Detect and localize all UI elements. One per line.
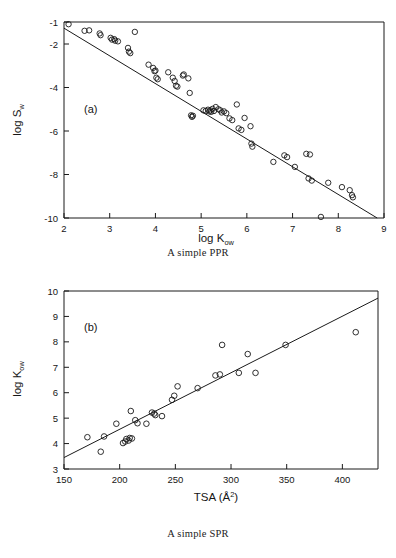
scatter-plot-b: 150200250300350400345678910(b)TSA (Å2)lo… [0, 279, 396, 558]
data-point [175, 384, 181, 390]
x-tick-label-a: 7 [290, 223, 295, 234]
x-tick-label-a: 6 [244, 223, 249, 234]
y-tick-label-b: 5 [53, 413, 58, 424]
data-point [98, 449, 104, 455]
panel-label-a: (a) [84, 103, 97, 115]
y-tick-label-a: -2 [50, 39, 58, 50]
data-points-a [66, 22, 356, 220]
plot-frame-b [64, 291, 378, 469]
scatter-plot-a: 23456789-1-2-4-6-8-10(a)log Kowlog Sw [0, 0, 396, 279]
data-point [126, 49, 131, 54]
data-point [186, 76, 191, 81]
data-point [155, 77, 160, 82]
chart-panel-b: 150200250300350400345678910(b)TSA (Å2)lo… [0, 279, 396, 558]
x-tick-label-a: 9 [381, 223, 386, 234]
y-tick-label-a: -8 [50, 169, 58, 180]
data-point [98, 33, 103, 38]
panel-label-b: (b) [84, 321, 97, 333]
x-tick-label-a: 4 [153, 223, 158, 234]
panel-a-caption: A simple PPR [0, 247, 396, 258]
data-point [187, 90, 192, 95]
data-point [166, 70, 171, 75]
x-tick-label-b: 200 [112, 474, 128, 485]
data-point [154, 75, 159, 80]
y-tick-label-a: -1 [50, 17, 58, 28]
y-tick-label-b: 6 [53, 387, 58, 398]
data-point [242, 115, 247, 120]
x-tick-label-b: 150 [56, 474, 72, 485]
data-point [353, 329, 359, 335]
data-point [144, 421, 150, 427]
data-point [219, 342, 225, 348]
x-tick-label-a: 8 [336, 223, 341, 234]
data-point [307, 152, 312, 157]
data-point [125, 45, 130, 50]
x-axis-title-b: TSA (Å2) [194, 490, 239, 503]
x-tick-label-b: 350 [279, 474, 295, 485]
data-point [253, 370, 259, 376]
x-tick-label-b: 300 [223, 474, 239, 485]
y-tick-label-b: 9 [53, 311, 58, 322]
figure-container: 23456789-1-2-4-6-8-10(a)log Kowlog Sw A … [0, 0, 396, 558]
regression-line-a [64, 28, 377, 218]
data-point [318, 214, 323, 219]
y-axis-title-a: log Sw [11, 104, 26, 136]
panel-b-caption: A simple SPR [0, 528, 396, 539]
y-tick-label-a: -6 [50, 126, 58, 137]
data-point [114, 421, 120, 427]
data-point [326, 180, 331, 185]
x-tick-label-b: 250 [167, 474, 183, 485]
y-tick-label-b: 4 [53, 438, 58, 449]
data-point [271, 159, 276, 164]
y-tick-label-b: 3 [53, 464, 58, 475]
x-axis-title-a: log Kow [198, 232, 234, 247]
y-tick-label-b: 7 [53, 362, 58, 373]
chart-panel-a: 23456789-1-2-4-6-8-10(a)log Kowlog Sw A … [0, 0, 396, 279]
data-points-b [85, 329, 359, 454]
data-point [132, 29, 137, 34]
y-tick-label-a: -10 [44, 213, 58, 224]
y-tick-label-b: 8 [53, 336, 58, 347]
data-point [245, 351, 251, 357]
x-tick-label-a: 2 [61, 223, 66, 234]
plot-frame-a [64, 22, 384, 218]
data-point [248, 124, 253, 129]
data-point [159, 413, 165, 419]
data-point [128, 408, 134, 414]
y-tick-label-b: 10 [47, 286, 58, 297]
y-axis-title-b: log Kow [11, 361, 26, 397]
x-tick-label-a: 3 [107, 223, 112, 234]
x-tick-label-b: 400 [334, 474, 350, 485]
y-tick-label-a: -4 [50, 82, 58, 93]
data-point [234, 102, 239, 107]
data-point [236, 370, 242, 376]
data-point [339, 184, 344, 189]
data-point [250, 144, 255, 149]
data-point [128, 50, 133, 55]
regression-line-b [64, 298, 378, 457]
data-point [85, 434, 91, 440]
